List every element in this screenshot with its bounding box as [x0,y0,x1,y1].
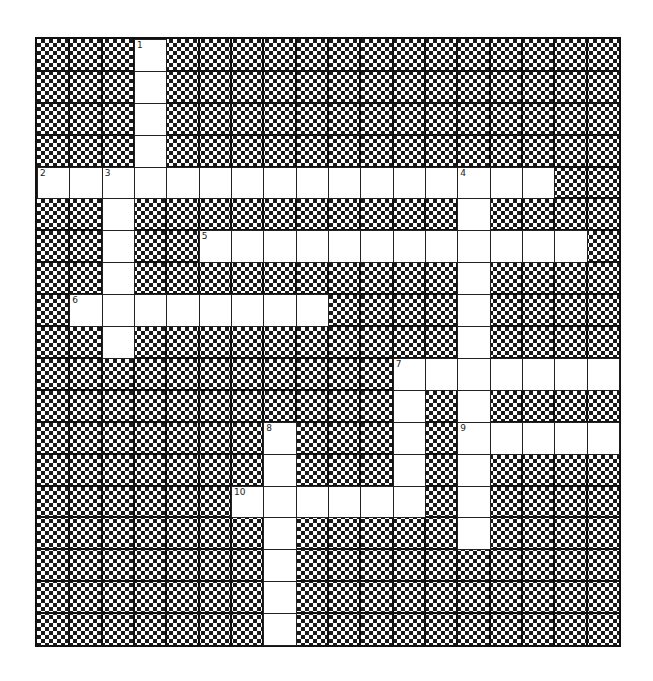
crossword-cell[interactable]: 4 [457,167,490,200]
crossword-cell[interactable] [199,294,232,327]
crossword-cell[interactable] [102,198,135,231]
crossword-cell[interactable] [522,167,555,200]
grid-line [37,134,619,136]
grid-line [230,39,232,645]
crossword-cell[interactable] [328,167,361,200]
crossword-cell[interactable]: 1 [134,39,167,72]
crossword-cell[interactable] [360,167,393,200]
crossword-cell[interactable] [360,486,393,519]
grid-line [37,612,619,614]
crossword-cell[interactable] [263,230,296,263]
crossword-cell[interactable] [134,135,167,168]
crossword-cell[interactable] [199,167,232,200]
grid-line [586,39,588,645]
clue-number: 1 [137,41,143,50]
crossword-cell[interactable] [102,262,135,295]
crossword-cell[interactable] [328,230,361,263]
crossword-cell[interactable] [457,326,490,359]
crossword-cell[interactable] [296,230,329,263]
crossword-cell[interactable] [263,294,296,327]
grid-line [424,39,426,645]
crossword-cell[interactable]: 2 [37,167,70,200]
clue-number: 8 [266,424,272,433]
crossword-cell[interactable] [522,230,555,263]
crossword-cell[interactable] [554,422,587,455]
crossword-cell[interactable] [457,486,490,519]
crossword-cell[interactable] [393,167,426,200]
crossword-cell[interactable] [263,517,296,550]
crossword-cell[interactable] [134,294,167,327]
grid-line [359,39,361,645]
crossword-cell[interactable] [360,230,393,263]
crossword-cell[interactable] [393,390,426,423]
grid-line [553,39,555,645]
crossword-cell[interactable] [231,294,264,327]
crossword-cell[interactable] [457,358,490,391]
crossword-cell[interactable] [134,167,167,200]
crossword-cell[interactable] [134,71,167,104]
crossword-cell[interactable] [263,549,296,582]
crossword-cell[interactable]: 10 [231,486,264,519]
crossword-cell[interactable] [490,422,523,455]
crossword-cell[interactable]: 8 [263,422,296,455]
crossword-cell[interactable] [296,167,329,200]
crossword-cell[interactable] [231,167,264,200]
crossword-cell[interactable] [263,581,296,614]
grid-line [392,39,394,645]
crossword-cell[interactable] [263,613,296,646]
crossword-cell[interactable] [69,167,102,200]
crossword-cell[interactable] [102,230,135,263]
clue-number: 7 [396,360,402,369]
crossword-cell[interactable] [166,167,199,200]
crossword-cell[interactable] [490,358,523,391]
crossword-cell[interactable] [393,422,426,455]
crossword-cell[interactable] [231,230,264,263]
clue-number: 5 [202,232,208,241]
crossword-cell[interactable] [425,230,458,263]
crossword-cell[interactable] [457,454,490,487]
crossword-cell[interactable] [263,167,296,200]
crossword-cell[interactable] [296,486,329,519]
grid-line [68,39,70,645]
grid-line [37,580,619,582]
crossword-cell[interactable] [393,230,426,263]
crossword-cell[interactable] [457,390,490,423]
crossword-cell[interactable] [522,358,555,391]
crossword-cell[interactable] [263,454,296,487]
crossword-cell[interactable] [102,294,135,327]
crossword-cell[interactable]: 9 [457,422,490,455]
crossword-cell[interactable] [490,230,523,263]
crossword-cell[interactable]: 7 [393,358,426,391]
grid-line [37,548,619,550]
grid-line [327,39,329,645]
crossword-cell[interactable] [296,294,329,327]
clue-number: 10 [234,488,245,497]
clue-number: 4 [460,169,466,178]
crossword-cell[interactable] [102,326,135,359]
crossword-cell[interactable] [457,198,490,231]
crossword-cell[interactable]: 5 [199,230,232,263]
crossword-cell[interactable]: 3 [102,167,135,200]
crossword-cell[interactable] [490,167,523,200]
crossword-cell[interactable] [166,294,199,327]
crossword-cell[interactable]: 6 [69,294,102,327]
crossword-cell[interactable] [457,230,490,263]
crossword-cell[interactable] [554,230,587,263]
crossword-cell[interactable] [587,358,620,391]
crossword-cell[interactable] [393,454,426,487]
crossword-cell[interactable] [263,486,296,519]
crossword-cell[interactable] [425,358,458,391]
crossword-cell[interactable] [522,422,555,455]
crossword-cell[interactable] [587,422,620,455]
crossword-cell[interactable] [457,294,490,327]
crossword-cell[interactable] [425,167,458,200]
crossword-cell[interactable] [328,486,361,519]
grid-line [37,70,619,72]
crossword-cell[interactable] [554,358,587,391]
crossword-cell[interactable] [457,262,490,295]
crossword-cell[interactable] [457,517,490,550]
crossword-cell[interactable] [134,103,167,136]
crossword-cell[interactable] [393,486,426,519]
grid-line [198,39,200,645]
crossword-grid: 12349567810 [35,37,621,647]
